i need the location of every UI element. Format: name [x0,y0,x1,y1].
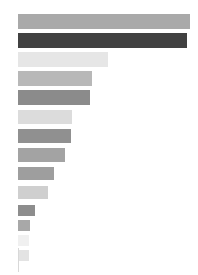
bar-item[interactable] [18,250,29,261]
bar-item[interactable] [18,235,29,246]
bar-item[interactable] [18,90,90,105]
plot-area [0,0,198,275]
bar-item[interactable] [18,33,187,48]
bar-item[interactable] [18,14,190,29]
bar-item[interactable] [18,220,30,231]
bar-item[interactable] [18,52,108,67]
bar-item[interactable] [18,205,35,216]
y-axis-line [18,248,19,272]
bar-item[interactable] [18,71,92,86]
bar-item[interactable] [18,186,48,199]
bar-chart [0,0,198,275]
bar-item[interactable] [18,129,71,143]
bar-item[interactable] [18,110,72,124]
bar-item[interactable] [18,148,65,162]
bar-item[interactable] [18,167,54,180]
